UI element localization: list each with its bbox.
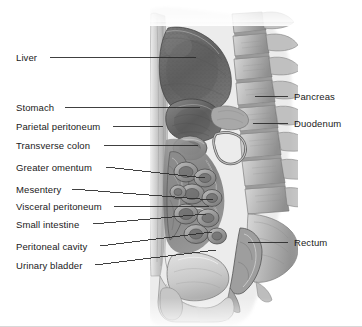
label-urinary-bladder: Urinary bladder: [16, 260, 82, 271]
label-visceral-peritoneum: Visceral peritoneum: [16, 201, 102, 212]
label-liver: Liver: [16, 52, 37, 63]
label-rectum: Rectum: [294, 237, 327, 248]
label-small-intestine: Small intestine: [16, 219, 79, 230]
label-mesentery: Mesentery: [16, 184, 61, 195]
label-transverse-colon: Transverse colon: [16, 140, 90, 151]
label-stomach: Stomach: [16, 102, 54, 113]
label-greater-omentum: Greater omentum: [16, 162, 92, 173]
label-parietal-peritoneum: Parietal peritoneum: [16, 121, 100, 132]
anatomy-figure: LiverStomachParietal peritoneumTransvers…: [0, 0, 362, 327]
label-peritoneal-cavity: Peritoneal cavity: [16, 241, 87, 252]
label-pancreas: Pancreas: [294, 91, 335, 102]
label-duodenum: Duodenum: [294, 118, 341, 129]
